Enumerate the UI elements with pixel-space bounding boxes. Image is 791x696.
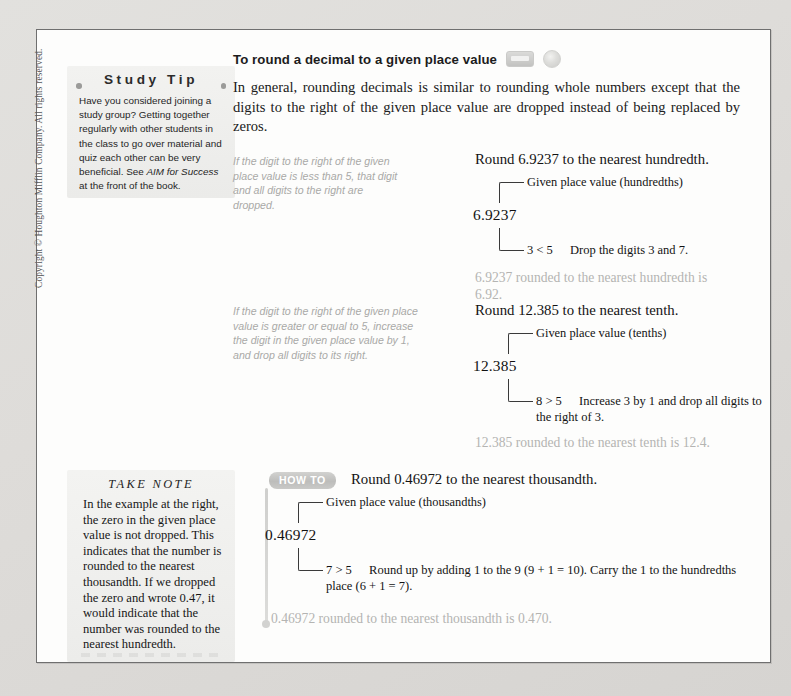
howto-explanation: Round up by adding 1 to the 9 (9 + 1 = 1… — [326, 563, 736, 593]
take-note-body: In the example at the right, the zero in… — [83, 497, 223, 653]
copyright-notice: Copyright © Houghton Mifflin Company. Al… — [34, 28, 44, 288]
study-tip-text-part2: at the front of the book. — [79, 180, 181, 191]
howto-result: 0.46972 rounded to the nearest thousandt… — [271, 610, 741, 627]
howto-number: 0.46972 — [265, 526, 316, 544]
example-2-number: 12.385 — [473, 357, 517, 375]
example-2-explanation: Increase 3 by 1 and drop all digits to t… — [536, 394, 762, 424]
study-tip-box: Study Tip Have you considered joining a … — [67, 66, 235, 198]
cd-disc-icon — [543, 50, 561, 68]
example-2-comparison: 8 > 5 — [536, 394, 562, 408]
study-tip-text-italic: AIM for Success — [147, 166, 219, 177]
elbow-connector-up-2 — [508, 333, 533, 354]
study-tip-body: Have you considered joining a study grou… — [79, 94, 225, 193]
howto-comparison: 7 > 5 — [326, 563, 352, 577]
study-tip-text-part1: Have you considered joining a study grou… — [79, 95, 222, 177]
elbow-connector-down-1 — [499, 228, 524, 251]
video-media-icon — [506, 51, 534, 67]
example-2-place-label: Given place value (tenths) — [536, 326, 666, 341]
study-tip-title: Study Tip — [67, 72, 235, 87]
textbook-page-sheet: Copyright © Houghton Mifflin Company. Al… — [36, 29, 771, 663]
take-note-box: TAKE NOTE In the example at the right, t… — [67, 470, 235, 662]
scanned-page-background: Copyright © Houghton Mifflin Company. Al… — [0, 0, 791, 696]
section-heading: To round a decimal to a given place valu… — [233, 50, 561, 68]
example-2-comparison-line: 8 > 5 Increase 3 by 1 and drop all digit… — [536, 393, 766, 426]
elbow-connector-up-howto — [298, 502, 323, 523]
rule-text-example-1: If the digit to the right of the given p… — [233, 154, 401, 212]
example-1-explanation: Drop the digits 3 and 7. — [570, 243, 688, 257]
howto-vertical-rule — [265, 488, 268, 624]
example-1-comparison-line: 3 < 5 Drop the digits 3 and 7. — [527, 242, 688, 258]
howto-place-label: Given place value (thousandths) — [326, 495, 486, 510]
example-1-comparison: 3 < 5 — [527, 243, 553, 257]
howto-rule-end-dot — [262, 620, 270, 628]
howto-title: Round 0.46972 to the nearest thousandth. — [351, 471, 597, 488]
section-heading-text: To round a decimal to a given place valu… — [233, 52, 497, 67]
take-note-title: TAKE NOTE — [67, 477, 235, 492]
example-1-place-label: Given place value (hundredths) — [527, 175, 683, 190]
example-1-title: Round 6.9237 to the nearest hundredth. — [475, 151, 709, 168]
example-1-number: 6.9237 — [473, 206, 517, 224]
intro-paragraph: In general, rounding decimals is similar… — [233, 78, 740, 137]
rule-text-example-2: If the digit to the right of the given p… — [233, 304, 421, 362]
example-1-result: 6.9237 rounded to the nearest hundredth … — [475, 269, 733, 303]
elbow-connector-down-howto — [298, 548, 323, 571]
elbow-connector-down-2 — [508, 379, 533, 402]
howto-badge: HOW TO — [269, 472, 336, 489]
elbow-connector-up-1 — [499, 182, 524, 203]
howto-comparison-line: 7 > 5 Round up by adding 1 to the 9 (9 +… — [326, 562, 746, 595]
example-2-result: 12.385 rounded to the nearest tenth is 1… — [475, 434, 733, 451]
scan-artifact — [81, 653, 221, 657]
example-2-title: Round 12.385 to the nearest tenth. — [475, 302, 678, 319]
